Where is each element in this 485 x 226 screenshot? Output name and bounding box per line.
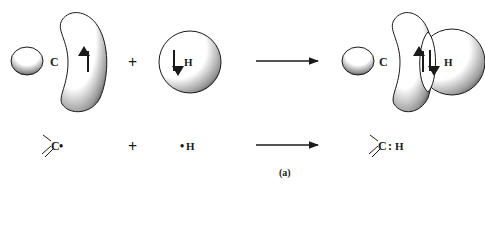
hydrogen-orbital-group: H (159, 31, 221, 93)
carbon-label: C (50, 55, 59, 69)
orbital-overlap-diagram: C + H C H C • + • H C : H (0, 0, 485, 226)
bond-line (370, 135, 378, 141)
product-carbon-label: C (379, 55, 388, 69)
plus-sign: + (128, 54, 137, 71)
product-lewis-carbon-label: C (378, 139, 387, 153)
figure-caption: (a) (279, 167, 291, 179)
lewis-plus-sign: + (128, 138, 137, 155)
carbon-small-lobe (11, 47, 43, 75)
product-lewis-hydrogen-label: H (395, 140, 404, 152)
carbon-orbital-group: C (11, 13, 107, 112)
shared-electron-pair: : (388, 139, 392, 153)
ch-bond-orbital-group: C H (342, 13, 485, 112)
bond-line (43, 135, 51, 141)
hydrogen-label: H (184, 56, 193, 68)
carbon-large-lobe (60, 13, 106, 112)
product-hydrogen-label: H (444, 56, 453, 68)
lewis-carbon-radical-dot: • (59, 139, 63, 153)
lewis-hydrogen-radical-dot: • (180, 139, 184, 153)
product-carbon-small-lobe (342, 47, 374, 75)
lewis-hydrogen-label: H (186, 140, 195, 152)
lewis-row: C • + • H C : H (42, 135, 404, 157)
